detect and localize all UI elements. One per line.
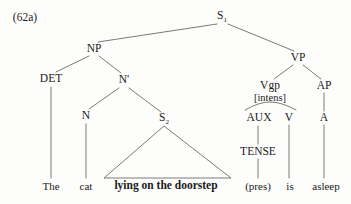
tree-node-cat: cat — [80, 181, 93, 192]
tree-node-nbar: N' — [119, 74, 129, 86]
tree-node-s2: S2 — [159, 112, 169, 126]
tree-node-ap: AP — [317, 80, 332, 92]
tree-node-aux: AUX — [247, 112, 272, 124]
tree-edge-nbar-n — [89, 88, 119, 109]
tree-node-s1: S1 — [217, 10, 227, 24]
syntax-tree-figure: (62a) S1NPVPDETN'VgpAP[intens]NS2AUXVATE… — [0, 0, 351, 204]
tree-edge-np-det — [56, 56, 89, 72]
s2-triangle-path — [104, 126, 231, 178]
tree-node-np: NP — [87, 43, 102, 55]
tree-edge-np-nbar — [99, 56, 121, 73]
tree-edge-s1-vp — [228, 24, 294, 51]
tree-node-vp: VP — [291, 52, 306, 64]
tree-node-n: N — [82, 110, 90, 122]
tree-edge-nbar-s2 — [129, 88, 161, 112]
tree-lines — [0, 0, 351, 204]
tree-edge-vp-vgp — [274, 65, 293, 79]
tree-node-tense: TENSE — [240, 146, 276, 158]
example-number: (62a) — [13, 11, 37, 23]
tree-edge-vp-ap — [303, 65, 321, 79]
tree-node-pres: (pres) — [245, 181, 271, 192]
tree-node-intens: [intens] — [254, 93, 286, 104]
tree-node-a: A — [320, 112, 328, 124]
tree-node-s2-subscript: 2 — [165, 118, 169, 126]
tree-edge-s1-np — [98, 24, 217, 42]
tree-node-v: V — [285, 112, 293, 124]
tree-node-the: The — [42, 181, 59, 192]
tree-node-vgp: Vgp — [260, 80, 280, 92]
tree-node-is: is — [286, 181, 293, 192]
tree-node-asleep: asleep — [312, 181, 339, 192]
tree-node-s1-subscript: 1 — [223, 16, 227, 24]
tree-node-lying: lying on the doorstep — [114, 180, 217, 192]
tree-node-det: DET — [40, 73, 62, 85]
